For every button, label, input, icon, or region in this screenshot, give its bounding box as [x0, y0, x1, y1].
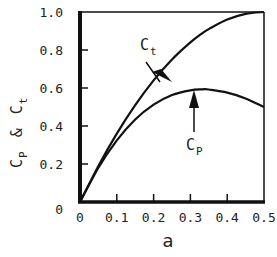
- x-axis-title: a: [162, 230, 173, 251]
- x-ticks: 00.10.20.30.40.5: [76, 194, 276, 225]
- y-tick-label: 0.4: [40, 119, 64, 134]
- cp-curve: [80, 89, 264, 202]
- x-tick-label: 0.2: [142, 210, 165, 225]
- x-tick-label: 0.3: [179, 210, 202, 225]
- y-axis-title: CP&Ct: [8, 98, 30, 168]
- ct-curve: [80, 12, 264, 202]
- cp-annotation: CP: [186, 90, 203, 158]
- cp-arrow-icon: [189, 90, 199, 108]
- y-tick-label: 1.0: [40, 5, 63, 20]
- x-tick-label: 0.1: [105, 210, 128, 225]
- y-tick-label: 0.8: [40, 43, 63, 58]
- ct-label: Ct: [140, 36, 157, 58]
- y-tick-label: 0: [55, 202, 63, 217]
- x-tick-label: 0.5: [252, 210, 275, 225]
- x-tick-label: 0: [76, 210, 84, 225]
- chart: 00.20.40.60.81.0 00.10.20.30.40.5 Ct CP …: [0, 0, 277, 257]
- ct-annotation: Ct: [140, 36, 172, 82]
- y-tick-label: 0.6: [40, 81, 63, 96]
- plot-frame: [78, 11, 265, 203]
- cp-label: CP: [186, 136, 203, 158]
- svg-text:CP&Ct: CP&Ct: [8, 98, 30, 168]
- y-tick-label: 0.2: [40, 157, 63, 172]
- x-tick-label: 0.4: [215, 210, 239, 225]
